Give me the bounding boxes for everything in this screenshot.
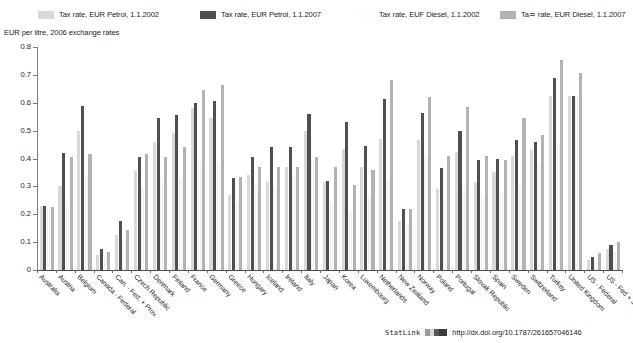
legend-label-3: Ta≍ rate, EUR Diesel, 1.1.2007 [521, 11, 625, 19]
bar-group [131, 47, 150, 270]
bar [428, 97, 431, 270]
bar [122, 241, 125, 270]
bar [383, 99, 386, 270]
bar [172, 133, 175, 270]
bar [443, 200, 446, 270]
bar [217, 164, 220, 270]
bar [191, 108, 194, 270]
bar [424, 156, 427, 270]
bar [417, 140, 420, 270]
bar-group [282, 47, 301, 270]
bar [617, 242, 620, 270]
bar [183, 147, 186, 270]
bar-group [339, 47, 358, 270]
bar-group [75, 47, 94, 270]
bar-group [358, 47, 377, 270]
y-tick-label-4: 0.4 [20, 155, 31, 163]
bar [398, 221, 401, 270]
bar [315, 157, 318, 270]
bar [345, 122, 348, 270]
legend-label-0: Tax rate, EUR Petrol, 1.1.2002 [59, 11, 159, 19]
legend-label-1: Tax rate, EUR Petrol, 1.1.2007 [221, 11, 321, 19]
bar [591, 257, 594, 270]
bar [613, 252, 616, 270]
bar [40, 206, 43, 270]
bar [323, 182, 326, 270]
bar [141, 189, 144, 270]
x-axis-labels: AustraliaAustriaBelgiumCanada - FederalC… [37, 270, 622, 330]
bar [285, 167, 288, 270]
bar [58, 186, 61, 270]
y-tick-label-2: 0.2 [20, 210, 31, 218]
bar [326, 181, 329, 270]
bar-group [377, 47, 396, 270]
bar [447, 156, 450, 270]
bar [164, 157, 167, 270]
bar [579, 73, 582, 270]
legend-swatch-3 [500, 11, 516, 19]
bar [289, 147, 292, 270]
x-axis-label: Japan [322, 273, 340, 291]
bar [77, 131, 80, 270]
bar [360, 167, 363, 270]
legend-entry-2: Tax rate, EUF Diesel, 1.1.2002 [358, 11, 479, 19]
x-tick-31 [622, 270, 623, 273]
bar [85, 178, 88, 270]
bar [485, 156, 488, 270]
bar [296, 167, 299, 270]
bar [477, 160, 480, 270]
bar-group [112, 47, 131, 270]
legend-swatch-2 [358, 11, 374, 19]
bar [406, 225, 409, 270]
y-tick-label-5: 0.5 [20, 127, 31, 135]
bar [549, 96, 552, 270]
bar [307, 114, 310, 270]
legend-swatch-1 [200, 11, 216, 19]
bar [247, 175, 250, 270]
y-tick-label-7: 0.7 [20, 71, 31, 79]
statlink-url[interactable]: http://dx.doi.org/10.1787/261657046146 [452, 328, 581, 337]
bar-group [603, 47, 622, 270]
bar [202, 90, 205, 270]
y-tick-label-3: 0.3 [20, 183, 31, 191]
bar [251, 157, 254, 270]
y-tick-label-6: 0.6 [20, 99, 31, 107]
bar [209, 118, 212, 270]
bar [368, 198, 371, 270]
bar [609, 245, 612, 270]
bar [334, 167, 337, 270]
bar-group [547, 47, 566, 270]
bar [179, 178, 182, 270]
legend-entry-3: Ta≍ rate, EUR Diesel, 1.1.2007 [500, 11, 625, 19]
bar [96, 255, 99, 270]
bar [175, 115, 178, 270]
bar-group [169, 47, 188, 270]
bar-group [301, 47, 320, 270]
bar-group [207, 47, 226, 270]
bar-group [263, 47, 282, 270]
plot-area: 00.10.20.30.40.50.60.70.8 [37, 47, 622, 270]
x-axis-label: Italy [303, 273, 317, 287]
bar [572, 96, 575, 270]
bar [587, 260, 590, 270]
bar [277, 167, 280, 270]
bar [349, 211, 352, 270]
bar [458, 131, 461, 270]
bar [440, 168, 443, 270]
bar [304, 131, 307, 270]
bar [534, 142, 537, 270]
chart-subtitle: EUR per litre, 2006 exchange rates [4, 28, 119, 37]
bar [515, 140, 518, 270]
bar-group [188, 47, 207, 270]
bar [43, 206, 46, 270]
bar [500, 192, 503, 270]
bar [530, 150, 533, 270]
bar [107, 252, 110, 270]
chart-legend: Tax rate, EUR Petrol, 1.1.2002Tax rate, … [0, 6, 633, 24]
bar [474, 182, 477, 270]
bar-group [94, 47, 113, 270]
bar [522, 118, 525, 270]
bar [266, 182, 269, 270]
x-axis-label: Spain [491, 273, 508, 290]
bar [81, 106, 84, 270]
